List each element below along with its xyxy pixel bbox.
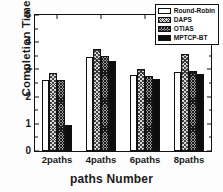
y-axis-minor-tick: [35, 137, 38, 138]
y-axis-tick: [35, 69, 39, 70]
y-axis-minor-tick: [35, 55, 38, 56]
bar-round-robin-6paths: [130, 75, 138, 151]
y-axis-minor-tick: [209, 55, 212, 56]
legend-item-round-robin: Round-Robin: [158, 7, 215, 15]
y-axis-tick-label: 2: [25, 92, 31, 102]
y-axis-tick: [35, 123, 39, 124]
y-axis-tick: [207, 123, 211, 124]
legend-label: Round-Robin: [174, 8, 215, 15]
bar-daps-6paths: [137, 69, 145, 151]
y-axis-tick-label: 1: [25, 119, 31, 129]
y-axis-minor-tick: [209, 137, 212, 138]
bar-otias-4paths: [101, 56, 109, 151]
legend-swatch-icon: [158, 35, 171, 42]
y-axis-tick: [207, 151, 211, 152]
x-axis-tick: [57, 15, 58, 19]
y-axis-minor-tick: [209, 110, 212, 111]
x-axis-tick-label: 2paths: [42, 154, 73, 165]
y-axis-tick: [35, 96, 39, 97]
legend-label: MPTCP-BT: [174, 35, 208, 42]
bar-round-robin-2paths: [42, 80, 50, 151]
bar-otias-8paths: [189, 71, 197, 151]
bar-mptcp-bt-6paths: [153, 79, 161, 151]
y-axis-tick-label: 4: [25, 37, 31, 47]
x-axis-tick-label: 8paths: [174, 154, 205, 165]
y-axis-tick-label: 3: [25, 64, 31, 74]
legend-item-mptcp-bt: MPTCP-BT: [158, 34, 215, 42]
bar-mptcp-bt-4paths: [109, 61, 117, 151]
x-axis-title: paths Number: [0, 172, 223, 186]
y-axis-minor-tick: [35, 83, 38, 84]
bar-daps-4paths: [93, 49, 101, 151]
y-axis-tick: [207, 96, 211, 97]
bar-daps-2paths: [49, 73, 57, 151]
legend-item-otias: OTIAS: [158, 25, 215, 33]
legend-swatch-icon: [158, 26, 171, 33]
y-axis-minor-tick: [209, 83, 212, 84]
bar-round-robin-4paths: [86, 57, 94, 151]
legend-swatch-icon: [158, 17, 171, 24]
bar-mptcp-bt-8paths: [197, 74, 205, 151]
y-axis-tick: [35, 15, 39, 16]
y-axis-tick-label: 5: [25, 10, 31, 20]
x-axis-tick-label: 4paths: [86, 154, 117, 165]
bar-otias-6paths: [145, 76, 153, 151]
x-axis-tick: [145, 15, 146, 19]
bar-round-robin-8paths: [174, 72, 182, 151]
y-axis-tick: [35, 151, 39, 152]
legend-label: DAPS: [174, 17, 192, 24]
y-axis-minor-tick: [35, 28, 38, 29]
legend-label: OTIAS: [174, 26, 194, 33]
bar-daps-8paths: [181, 54, 189, 151]
legend-item-daps: DAPS: [158, 16, 215, 24]
y-axis-tick-label: 0: [25, 146, 31, 156]
completion-time-bar-chart: Completion Time(ms) 0123452paths4paths6p…: [0, 0, 223, 192]
y-axis-tick: [35, 42, 39, 43]
y-axis-minor-tick: [35, 110, 38, 111]
bar-otias-2paths: [57, 80, 65, 151]
x-axis-tick: [101, 15, 102, 19]
bar-mptcp-bt-2paths: [65, 125, 73, 151]
legend-swatch-icon: [158, 8, 171, 15]
chart-legend: Round-RobinDAPSOTIASMPTCP-BT: [155, 4, 219, 45]
y-axis-tick: [207, 69, 211, 70]
x-axis-tick-label: 6paths: [130, 154, 161, 165]
